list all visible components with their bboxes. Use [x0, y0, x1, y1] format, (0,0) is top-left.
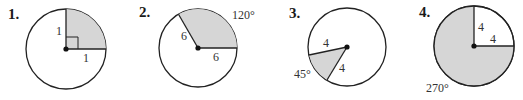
- radius-label: 4: [478, 20, 484, 34]
- center-point: [471, 43, 476, 48]
- figure-number: 2.: [139, 4, 151, 20]
- center-point: [195, 45, 200, 50]
- figure-4: 4. 4 4 270°: [419, 4, 514, 95]
- sector-diagrams: 1. 1 1 2. 6 6 120° 3. 4 4 45° 4.: [0, 0, 523, 100]
- radius-label: 4: [323, 36, 329, 50]
- angle-label: 270°: [426, 81, 449, 95]
- figure-2: 2. 6 6 120°: [139, 4, 255, 87]
- radius-label: 1: [56, 24, 62, 38]
- figure-number: 4.: [419, 4, 431, 20]
- radius-label: 6: [181, 29, 187, 43]
- figure-1: 1. 1 1: [8, 6, 106, 89]
- center-point: [344, 44, 349, 49]
- figure-3: 3. 4 4 45°: [289, 5, 386, 86]
- figure-number: 3.: [289, 5, 301, 21]
- radius-label: 4: [490, 32, 496, 46]
- radius-label: 4: [339, 61, 345, 75]
- center-point: [63, 46, 68, 51]
- figure-number: 1.: [8, 6, 20, 22]
- angle-label: 120°: [232, 8, 255, 22]
- shaded-sector: [66, 9, 106, 49]
- angle-label: 45°: [294, 67, 311, 81]
- radius-label: 1: [83, 51, 89, 65]
- radius-label: 6: [213, 50, 219, 64]
